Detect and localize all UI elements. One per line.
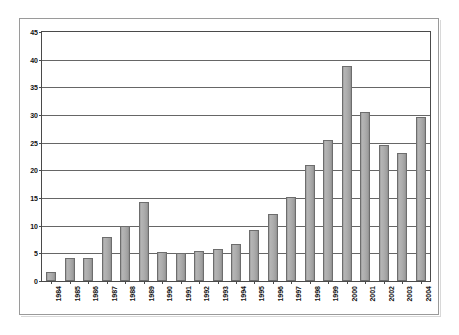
x-axis-tick-label: 2003: [402, 278, 409, 294]
bar-slot: [282, 32, 300, 281]
y-axis-tick-label: 10: [30, 222, 38, 229]
bar[interactable]: [176, 253, 186, 281]
x-axis-tick-label-text: 1984: [55, 286, 62, 302]
bar-slot: [319, 32, 337, 281]
y-axis-tick-label: 20: [30, 167, 38, 174]
x-axis-tick-label-text: 2004: [424, 286, 431, 302]
bar-slot: [375, 32, 393, 281]
x-axis-tick-label-text: 1988: [129, 286, 136, 302]
x-axis-tick-label-text: 1996: [276, 286, 283, 302]
x-axis-tick-label: 1985: [70, 278, 77, 294]
bar-slot: [338, 32, 356, 281]
y-axis-tick-label: 25: [30, 139, 38, 146]
x-axis-tick-label-text: 1997: [295, 286, 302, 302]
x-axis-tick-label: 1992: [199, 278, 206, 294]
y-axis-tick-mark: [39, 281, 42, 282]
x-axis-tick-label: 1999: [328, 278, 335, 294]
x-axis-tick-label-text: 1992: [203, 286, 210, 302]
bar[interactable]: [305, 165, 315, 281]
bar[interactable]: [194, 251, 204, 281]
bar[interactable]: [286, 197, 296, 281]
x-axis-tick-label-text: 2000: [350, 286, 357, 302]
bar-slot: [412, 32, 430, 281]
bar-slot: [60, 32, 78, 281]
x-axis-tick-label-text: 1993: [221, 286, 228, 302]
bar[interactable]: [342, 66, 352, 281]
x-axis-tick-label-text: 1985: [73, 286, 80, 302]
bar-slot: [393, 32, 411, 281]
bars-group: [42, 32, 430, 281]
y-axis-tick-label: 5: [34, 250, 38, 257]
bar[interactable]: [231, 244, 241, 281]
bar[interactable]: [157, 252, 167, 281]
plot-area: 051015202530354045 198419851986198719881…: [41, 31, 431, 282]
x-axis-tick-label: 1995: [254, 278, 261, 294]
x-axis-tick-label-text: 1987: [110, 286, 117, 302]
x-axis-tick-label: 2004: [421, 278, 428, 294]
x-axis-tick-label-text: 1998: [313, 286, 320, 302]
x-axis-tick-label: 1986: [88, 278, 95, 294]
x-axis-tick-label-text: 1999: [332, 286, 339, 302]
bar-slot: [301, 32, 319, 281]
y-axis-tick-label: 30: [30, 112, 38, 119]
x-axis-tick-label: 1997: [291, 278, 298, 294]
x-axis-tick-label: 1989: [144, 278, 151, 294]
x-axis-tick-label: 2000: [347, 278, 354, 294]
bar[interactable]: [268, 214, 278, 281]
bar[interactable]: [139, 202, 149, 281]
x-axis-tick-label: 1984: [51, 278, 58, 294]
bar-slot: [79, 32, 97, 281]
bar-slot: [42, 32, 60, 281]
y-axis-tick-label: 0: [34, 278, 38, 285]
bar-slot: [356, 32, 374, 281]
bar-slot: [190, 32, 208, 281]
x-axis-tick-label-text: 1989: [147, 286, 154, 302]
bar[interactable]: [323, 140, 333, 281]
x-axis-tick-label-text: 2003: [406, 286, 413, 302]
bar-slot: [134, 32, 152, 281]
bar[interactable]: [397, 153, 407, 281]
y-axis-tick-label: 45: [30, 29, 38, 36]
bar[interactable]: [102, 237, 112, 281]
x-axis-tick-label: 1998: [310, 278, 317, 294]
x-axis-tick-label-text: 1986: [92, 286, 99, 302]
bar-slot: [208, 32, 226, 281]
bar-chart-figure: 051015202530354045 198419851986198719881…: [0, 0, 459, 335]
bar-slot: [227, 32, 245, 281]
x-axis-tick-label-text: 1994: [240, 286, 247, 302]
x-axis-tick-label: 2002: [384, 278, 391, 294]
bar[interactable]: [213, 249, 223, 281]
bar[interactable]: [360, 112, 370, 281]
x-axis-tick-label-text: 2001: [369, 286, 376, 302]
x-axis-tick-label: 1990: [162, 278, 169, 294]
bar-slot: [245, 32, 263, 281]
x-axis-tick-label: 1991: [181, 278, 188, 294]
bar[interactable]: [379, 145, 389, 281]
y-axis-tick-label: 15: [30, 195, 38, 202]
bar[interactable]: [416, 117, 426, 281]
bar-slot: [264, 32, 282, 281]
x-axis-tick-label: 2001: [365, 278, 372, 294]
x-axis-tick-label-text: 1990: [166, 286, 173, 302]
bar-slot: [171, 32, 189, 281]
bar[interactable]: [249, 230, 259, 281]
bar-slot: [153, 32, 171, 281]
x-axis-tick-label: 1993: [218, 278, 225, 294]
bar-slot: [116, 32, 134, 281]
x-axis-tick-label: 1987: [107, 278, 114, 294]
x-axis-tick-label: 1996: [273, 278, 280, 294]
y-axis-tick-label: 40: [30, 56, 38, 63]
x-axis-tick-label-text: 1991: [184, 286, 191, 302]
bar-slot: [97, 32, 115, 281]
x-axis-tick-label-text: 1995: [258, 286, 265, 302]
y-axis-tick-label: 35: [30, 84, 38, 91]
x-axis-tick-label: 1994: [236, 278, 243, 294]
bar[interactable]: [120, 226, 130, 281]
x-axis-tick-label: 1988: [125, 278, 132, 294]
x-axis-tick-label-text: 2002: [387, 286, 394, 302]
